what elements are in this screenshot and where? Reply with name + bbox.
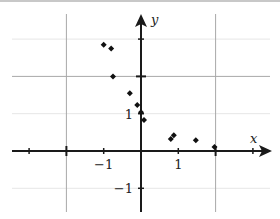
- x-axis-label: x: [250, 131, 258, 146]
- y-tick-label: 1: [125, 107, 133, 122]
- data-point: [193, 137, 199, 143]
- data-point: [134, 102, 140, 108]
- y-axis-label: y: [150, 12, 159, 27]
- data-point: [108, 45, 114, 51]
- data-point: [101, 42, 107, 48]
- scatter-plot: −111−1 x y: [0, 0, 280, 219]
- y-tick-label: −1: [114, 181, 133, 196]
- x-tick-label: −1: [94, 157, 113, 172]
- data-points: [101, 42, 218, 150]
- data-point: [110, 73, 116, 79]
- data-point: [127, 90, 133, 96]
- x-tick-label: 1: [174, 157, 182, 172]
